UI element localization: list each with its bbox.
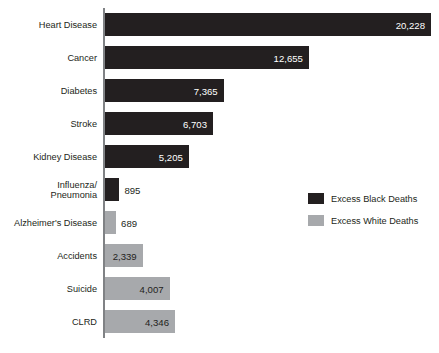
bar-accidents[interactable]: 2,339 — [105, 244, 143, 267]
legend-label-excess-black-deaths: Excess Black Deaths — [331, 194, 417, 204]
bar-wrap-accidents: 2,339 — [105, 244, 431, 267]
bar-wrap-clrd: 4,346 — [105, 310, 431, 333]
bar-value-heart-disease: 20,228 — [396, 19, 425, 30]
legend-label-excess-white-deaths: Excess White Deaths — [331, 216, 418, 226]
bar-wrap-suicide: 4,007 — [105, 277, 431, 300]
chart-caption — [104, 342, 439, 352]
table-row: Heart Disease 20,228 — [0, 8, 439, 41]
category-label-influenza-pneumonia: Influenza/ Pneumonia — [0, 179, 97, 200]
bar-wrap-cancer: 12,655 — [105, 46, 431, 69]
bar-wrap-stroke: 6,703 — [105, 112, 431, 135]
bar-wrap-kidney-disease: 5,205 — [105, 145, 431, 168]
bar-chart: Heart Disease 20,228 Cancer 12,655 Diabe… — [0, 0, 439, 353]
bar-suicide[interactable]: 4,007 — [105, 277, 170, 300]
table-row: Diabetes 7,365 — [0, 74, 439, 107]
category-label-heart-disease: Heart Disease — [0, 19, 97, 30]
category-label-diabetes: Diabetes — [0, 85, 97, 96]
bar-kidney-disease[interactable]: 5,205 — [105, 145, 189, 168]
bar-value-diabetes: 7,365 — [194, 85, 218, 96]
table-row: CLRD 4,346 — [0, 305, 439, 338]
table-row: Accidents 2,339 — [0, 239, 439, 272]
bar-rows: Heart Disease 20,228 Cancer 12,655 Diabe… — [0, 8, 439, 338]
category-label-stroke: Stroke — [0, 118, 97, 129]
category-label-alzheimers-disease: Alzheimer's Disease — [0, 217, 97, 228]
table-row: Suicide 4,007 — [0, 272, 439, 305]
bar-alzheimers-disease[interactable]: 689 — [105, 211, 116, 234]
bar-value-cancer: 12,655 — [274, 52, 303, 63]
legend-swatch-icon-excess-black-deaths — [308, 193, 324, 204]
bar-wrap-heart-disease: 20,228 — [105, 13, 431, 36]
bar-value-alzheimers-disease: 689 — [121, 217, 137, 228]
bar-heart-disease[interactable]: 20,228 — [105, 13, 431, 36]
bar-diabetes[interactable]: 7,365 — [105, 79, 224, 102]
category-label-kidney-disease: Kidney Disease — [0, 151, 97, 162]
category-label-cancer: Cancer — [0, 52, 97, 63]
category-label-suicide: Suicide — [0, 283, 97, 294]
table-row: Kidney Disease 5,205 — [0, 140, 439, 173]
bar-value-influenza-pneumonia: 895 — [124, 184, 140, 195]
category-label-clrd: CLRD — [0, 316, 97, 327]
bar-value-stroke: 6,703 — [183, 118, 207, 129]
table-row: Cancer 12,655 — [0, 41, 439, 74]
legend-item-excess-white-deaths[interactable]: Excess White Deaths — [308, 215, 418, 226]
chart-legend: Excess Black Deaths Excess White Deaths — [308, 193, 418, 237]
bar-value-kidney-disease: 5,205 — [159, 151, 183, 162]
legend-item-excess-black-deaths[interactable]: Excess Black Deaths — [308, 193, 418, 204]
bar-value-suicide: 4,007 — [140, 283, 164, 294]
legend-swatch-icon-excess-white-deaths — [308, 215, 324, 226]
category-label-accidents: Accidents — [0, 250, 97, 261]
bar-wrap-diabetes: 7,365 — [105, 79, 431, 102]
bar-value-clrd: 4,346 — [145, 316, 169, 327]
bar-value-accidents: 2,339 — [113, 250, 137, 261]
bar-influenza-pneumonia[interactable]: 895 — [105, 178, 119, 201]
bar-cancer[interactable]: 12,655 — [105, 46, 309, 69]
bar-stroke[interactable]: 6,703 — [105, 112, 213, 135]
bar-clrd[interactable]: 4,346 — [105, 310, 175, 333]
table-row: Stroke 6,703 — [0, 107, 439, 140]
